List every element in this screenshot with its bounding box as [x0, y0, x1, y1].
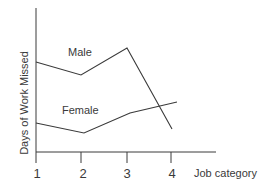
- x-axis-label: Job category: [194, 167, 257, 179]
- x-tick-label-4: 4: [168, 166, 175, 181]
- series-male-label: Male: [68, 46, 92, 58]
- series-female-label: Female: [62, 104, 99, 116]
- x-tick-label-2: 2: [79, 166, 86, 181]
- series-male-line: [36, 48, 172, 129]
- x-tick-label-1: 1: [33, 166, 40, 181]
- line-chart: 1 2 3 4 Job category Days of Work Missed…: [0, 0, 273, 192]
- series-female-line: [36, 102, 177, 133]
- x-ticks: [36, 152, 171, 163]
- y-axis-label: Days of Work Missed: [18, 51, 30, 155]
- x-tick-label-3: 3: [123, 166, 130, 181]
